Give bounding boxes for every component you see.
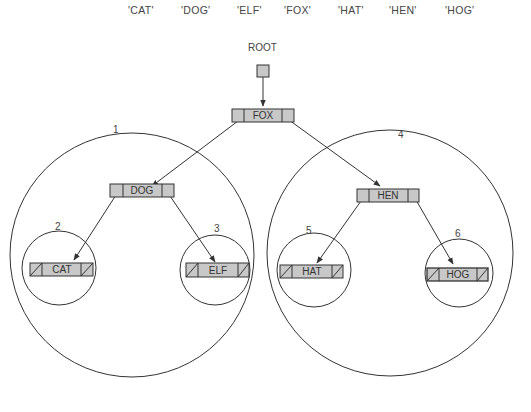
node-hog: HOG <box>427 268 488 281</box>
region-label-4: 4 <box>398 129 404 140</box>
node-fox-label: FOX <box>253 110 274 121</box>
node-hog-label: HOG <box>447 269 470 280</box>
region-label-3: 3 <box>214 223 220 234</box>
node-cat: CAT <box>30 263 93 276</box>
root-label: ROOT <box>248 42 277 53</box>
region-circle-1 <box>10 133 254 377</box>
node-dog-label: DOG <box>131 185 154 196</box>
node-hat: HAT <box>280 265 343 278</box>
region-label-1: 1 <box>113 124 119 135</box>
tree-diagram: 1 2 3 4 5 6 ROOT FOX DOG HEN CAT <box>0 0 531 412</box>
edge-fox-hen <box>289 120 380 186</box>
edge-hen-hog <box>416 200 453 264</box>
node-hen: HEN <box>357 189 419 202</box>
region-label-5: 5 <box>306 225 312 236</box>
edge-hen-hat <box>317 201 361 263</box>
edge-dog-cat <box>74 195 116 260</box>
edge-dog-elf <box>170 196 215 262</box>
node-dog: DOG <box>110 184 174 197</box>
region-label-6: 6 <box>455 228 461 239</box>
node-hat-label: HAT <box>302 266 321 277</box>
node-fox: FOX <box>232 109 294 122</box>
node-cat-label: CAT <box>52 264 71 275</box>
root-pointer-box <box>257 65 269 77</box>
node-elf: ELF <box>186 263 249 277</box>
node-hen-label: HEN <box>377 190 398 201</box>
node-elf-label: ELF <box>209 265 227 276</box>
region-label-2: 2 <box>55 221 61 232</box>
region-circle-4 <box>267 130 513 376</box>
